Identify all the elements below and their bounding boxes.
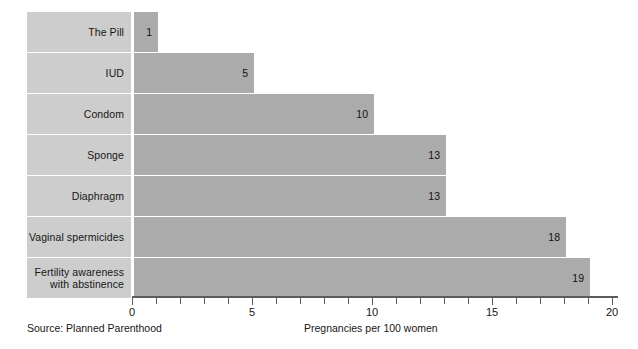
x-axis-tick-3 bbox=[204, 296, 205, 304]
row-label-line1: IUD bbox=[106, 67, 124, 80]
x-axis-tick-0 bbox=[132, 296, 133, 305]
x-axis-tick-11 bbox=[396, 296, 397, 304]
bar-diaphragm: 13 bbox=[134, 176, 446, 216]
bar-chart: The Pill 1 IUD 5 Condom 10 Sponge 13 bbox=[0, 0, 638, 349]
row-label-vaginal-spermicides: Vaginal spermicides bbox=[27, 217, 131, 257]
x-axis-tick-1 bbox=[156, 296, 157, 304]
x-axis-tick-6 bbox=[276, 296, 277, 304]
x-axis-tick-label-20: 20 bbox=[606, 306, 618, 318]
row-label-line1: Condom bbox=[84, 108, 124, 121]
x-axis-tick-8 bbox=[324, 296, 325, 304]
chart-row: Diaphragm 13 bbox=[27, 176, 638, 216]
source-note: Source: Planned Parenthood bbox=[27, 322, 162, 334]
x-axis-tick-2 bbox=[180, 296, 181, 304]
row-label-the-pill: The Pill bbox=[27, 12, 131, 52]
bar-value-label: 5 bbox=[242, 67, 248, 79]
bar-value-label: 18 bbox=[548, 231, 560, 243]
x-axis-tick-label-0: 0 bbox=[129, 306, 135, 318]
bar-value-label: 19 bbox=[572, 272, 584, 284]
chart-row: The Pill 1 bbox=[27, 12, 638, 52]
chart-row: Fertility awareness with abstinence 19 bbox=[27, 258, 638, 298]
row-label-line1: Vaginal spermicides bbox=[29, 231, 124, 244]
x-axis-title: Pregnancies per 100 women bbox=[304, 322, 438, 334]
x-axis-tick-15 bbox=[492, 296, 493, 305]
x-axis-tick-4 bbox=[228, 296, 229, 304]
row-label-iud: IUD bbox=[27, 53, 131, 93]
row-label-line1: Sponge bbox=[87, 149, 124, 162]
bar-the-pill: 1 bbox=[134, 12, 158, 52]
bar-vaginal-spermicides: 18 bbox=[134, 217, 566, 257]
bar-iud: 5 bbox=[134, 53, 254, 93]
chart-row: IUD 5 bbox=[27, 53, 638, 93]
x-axis-tick-12 bbox=[420, 296, 421, 304]
x-axis-tick-10 bbox=[372, 296, 373, 305]
x-axis-tick-13 bbox=[444, 296, 445, 304]
bar-value-label: 1 bbox=[146, 26, 152, 38]
x-axis-tick-18 bbox=[564, 296, 565, 304]
x-axis-tick-20 bbox=[612, 296, 613, 305]
x-axis-tick-16 bbox=[516, 296, 517, 304]
x-axis-tick-9 bbox=[348, 296, 349, 304]
bar-value-label: 13 bbox=[428, 190, 440, 202]
row-label-diaphragm: Diaphragm bbox=[27, 176, 131, 216]
x-axis-tick-label-10: 10 bbox=[366, 306, 378, 318]
x-axis-tick-7 bbox=[300, 296, 301, 304]
x-axis-tick-19 bbox=[588, 296, 589, 304]
bar-condom: 10 bbox=[134, 94, 374, 134]
bar-value-label: 10 bbox=[356, 108, 368, 120]
chart-row: Condom 10 bbox=[27, 94, 638, 134]
row-label-line1: Fertility awareness bbox=[35, 266, 124, 279]
x-axis-tick-14 bbox=[468, 296, 469, 304]
row-label-fertility-awareness: Fertility awareness with abstinence bbox=[27, 258, 131, 298]
row-label-line2: with abstinence bbox=[35, 278, 124, 291]
x-axis-tick-5 bbox=[252, 296, 253, 305]
bar-sponge: 13 bbox=[134, 135, 446, 175]
row-label-line1: The Pill bbox=[88, 26, 124, 39]
bar-fertility-awareness: 19 bbox=[134, 258, 590, 298]
bar-value-label: 13 bbox=[428, 149, 440, 161]
row-label-sponge: Sponge bbox=[27, 135, 131, 175]
row-label-condom: Condom bbox=[27, 94, 131, 134]
chart-row: Sponge 13 bbox=[27, 135, 638, 175]
row-label-line1: Diaphragm bbox=[72, 190, 124, 203]
chart-row: Vaginal spermicides 18 bbox=[27, 217, 638, 257]
x-axis-tick-label-15: 15 bbox=[486, 306, 498, 318]
x-axis-tick-label-5: 5 bbox=[249, 306, 255, 318]
x-axis-tick-17 bbox=[540, 296, 541, 304]
